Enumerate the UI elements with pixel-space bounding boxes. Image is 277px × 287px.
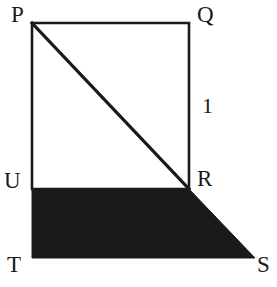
vertex-label-u: U — [4, 169, 21, 192]
diagonal-line-pr — [32, 23, 189, 189]
vertex-label-r: R — [197, 167, 212, 190]
side-length-label: 1 — [202, 95, 213, 117]
vertex-label-s: S — [257, 253, 270, 276]
shaded-region-utsr — [32, 189, 255, 258]
vertex-label-q: Q — [197, 3, 214, 26]
vertex-label-t: T — [7, 253, 21, 276]
figure-canvas — [0, 0, 277, 287]
vertex-label-p: P — [11, 3, 24, 26]
geometry-figure: P Q U R T S 1 — [0, 0, 277, 287]
